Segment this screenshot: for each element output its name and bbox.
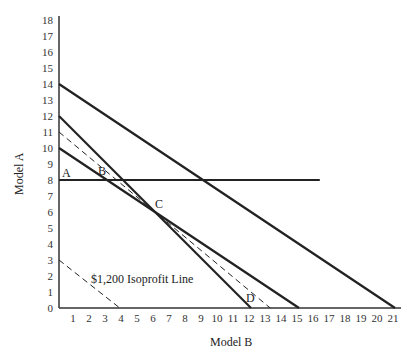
y-tick-label: 12 (42, 110, 53, 122)
y-tick-label: 17 (42, 30, 54, 42)
x-tick-label: 15 (292, 312, 304, 324)
y-axis-title: Model A (12, 152, 26, 195)
x-tick-label: 5 (134, 312, 140, 324)
y-tick-label: 1 (48, 286, 54, 298)
x-tick-label: 8 (182, 312, 188, 324)
y-tick-label: 9 (48, 158, 54, 170)
y-tick-label: 11 (42, 126, 53, 138)
y-tick-label: 4 (48, 238, 54, 250)
y-tick-label: 14 (42, 78, 54, 90)
y-tick-label: 5 (48, 222, 54, 234)
x-tick-label: 7 (166, 312, 172, 324)
y-tick-label: 3 (48, 254, 54, 266)
y-tick-label: 13 (42, 94, 54, 106)
point-label-c: C (155, 197, 163, 211)
x-tick-label: 9 (198, 312, 204, 324)
x-tick-label: 14 (276, 312, 288, 324)
axes (59, 16, 401, 308)
x-tick-label: 19 (356, 312, 368, 324)
y-tick-label: 8 (48, 174, 54, 186)
x-tick-label: 4 (118, 312, 124, 324)
chart: 0123456789101112131415161718123456789101… (0, 0, 416, 359)
x-tick-label: 20 (372, 312, 384, 324)
x-tick-label: 17 (324, 312, 336, 324)
x-tick-label: 18 (340, 312, 352, 324)
y-tick-label: 18 (42, 14, 54, 26)
x-tick-label: 21 (388, 312, 399, 324)
y-tick-label: 2 (48, 270, 54, 282)
point-label-b: B (98, 164, 106, 178)
point-label-a: A (62, 166, 71, 180)
x-tick-label: 2 (86, 312, 92, 324)
x-tick-label: 6 (150, 312, 156, 324)
y-tick-label: 15 (42, 62, 54, 74)
x-tick-label: 10 (212, 312, 224, 324)
y-tick-label: 7 (48, 190, 54, 202)
x-tick-label: 16 (308, 312, 320, 324)
y-tick-label: 0 (48, 302, 54, 314)
isoprofit-label: $1,200 Isoprofit Line (91, 272, 193, 286)
x-tick-label: 1 (70, 312, 76, 324)
x-tick-label: 11 (228, 312, 239, 324)
x-axis-title: Model B (210, 335, 252, 349)
x-tick-label: 3 (102, 312, 108, 324)
y-tick-label: 6 (48, 206, 54, 218)
y-tick-label: 10 (42, 142, 54, 154)
x-tick-label: 12 (244, 312, 255, 324)
point-label-d: D (246, 291, 255, 305)
y-tick-label: 16 (42, 46, 54, 58)
x-tick-label: 13 (260, 312, 272, 324)
